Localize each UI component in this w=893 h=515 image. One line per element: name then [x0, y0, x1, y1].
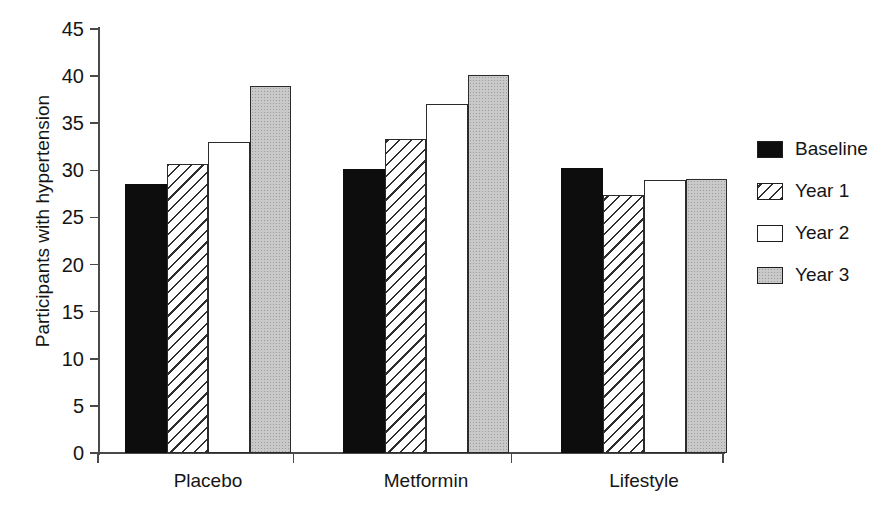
y-axis-tick-label: 20 — [36, 255, 84, 275]
diagonal-hatch-swatch — [757, 183, 783, 200]
legend-item-year2: Year 2 — [757, 212, 893, 254]
legend-item-year3: Year 3 — [757, 254, 893, 296]
x-axis-tick — [97, 453, 99, 463]
y-axis-tick — [90, 75, 99, 77]
bar-metformin-year3 — [468, 75, 510, 453]
legend-label: Year 1 — [795, 180, 849, 202]
y-axis-tick — [90, 122, 99, 124]
y-axis-tick — [90, 28, 99, 30]
y-axis-tick-label: 30 — [36, 160, 84, 180]
y-axis-tick — [90, 311, 99, 313]
x-axis-group-label-metformin: Metformin — [346, 470, 506, 492]
bar-lifestyle-year3 — [686, 179, 728, 453]
legend-label: Year 2 — [795, 222, 849, 244]
y-axis-tick-labels: 051015202530354045 — [30, 0, 84, 515]
solid-black-swatch — [757, 141, 783, 158]
x-axis-tick — [511, 453, 513, 463]
legend-item-baseline: Baseline — [757, 128, 893, 170]
bar-lifestyle-year2 — [644, 180, 686, 453]
y-axis-tick — [90, 358, 99, 360]
x-axis-group-label-lifestyle: Lifestyle — [564, 470, 724, 492]
bar-lifestyle-baseline — [561, 168, 603, 453]
y-axis-tick — [90, 452, 99, 454]
y-axis-tick-label: 15 — [36, 302, 84, 322]
bar-placebo-year1 — [167, 164, 209, 453]
y-axis-tick-label: 45 — [36, 19, 84, 39]
bar-placebo-year3 — [250, 86, 292, 453]
y-axis-tick — [90, 170, 99, 172]
bar-lifestyle-year1 — [603, 195, 645, 453]
y-axis-tick-label: 35 — [36, 113, 84, 133]
y-axis-tick — [90, 217, 99, 219]
y-axis-tick-label: 0 — [36, 443, 84, 463]
x-axis-tick — [293, 453, 295, 463]
plot-area — [98, 29, 723, 453]
y-axis-tick-label: 10 — [36, 349, 84, 369]
empty-white-swatch — [757, 225, 783, 242]
y-axis-tick — [90, 405, 99, 407]
bar-placebo-baseline — [125, 184, 167, 453]
legend-label: Baseline — [795, 138, 868, 160]
bar-chart-figure: Participants with hypertension 051015202… — [0, 0, 893, 515]
bar-metformin-baseline — [343, 169, 385, 453]
bar-placebo-year2 — [208, 142, 250, 453]
gray-stipple-swatch — [757, 267, 783, 284]
bar-metformin-year1 — [385, 139, 427, 453]
legend-item-year1: Year 1 — [757, 170, 893, 212]
legend-label: Year 3 — [795, 264, 849, 286]
x-axis-group-label-placebo: Placebo — [128, 470, 288, 492]
y-axis-tick-label: 25 — [36, 207, 84, 227]
chart-legend: BaselineYear 1Year 2Year 3 — [757, 128, 893, 296]
x-axis-tick — [722, 453, 724, 463]
y-axis-tick-label: 5 — [36, 396, 84, 416]
y-axis-tick — [90, 264, 99, 266]
bar-metformin-year2 — [426, 104, 468, 453]
y-axis-tick-label: 40 — [36, 66, 84, 86]
